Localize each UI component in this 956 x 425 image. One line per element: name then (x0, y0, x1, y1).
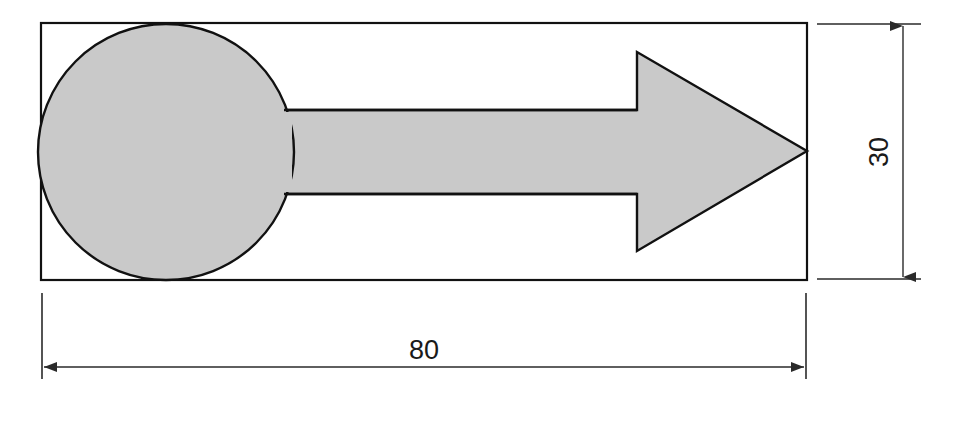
height-dimension-label: 30 (864, 137, 894, 167)
arrow-body-shape (285, 52, 807, 251)
technical-drawing-canvas: 80 30 (0, 0, 956, 425)
width-dimension-label: 80 (409, 335, 439, 365)
part-geometry (38, 24, 807, 280)
height-dimension-group: 30 (817, 24, 921, 279)
circle-shaft-seam-cover (250, 112, 292, 192)
width-dimension-group: 80 (42, 293, 806, 379)
drawing-svg: 80 30 (0, 0, 956, 425)
